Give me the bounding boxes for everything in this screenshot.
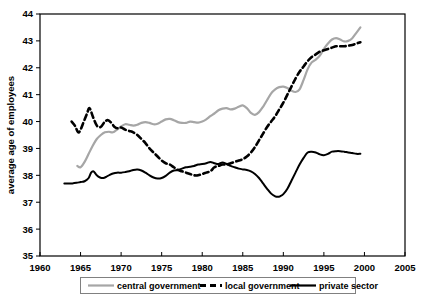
x-tick-label: 2000 bbox=[354, 262, 375, 273]
x-tick-label: 1960 bbox=[29, 262, 50, 273]
legend-label-private-sector: private sector bbox=[319, 281, 379, 291]
x-tick-label: 1985 bbox=[232, 262, 254, 273]
x-axis: 1960196519701975198019851990199520002005 bbox=[29, 252, 416, 273]
plot-area-frame bbox=[40, 14, 405, 256]
x-tick-label: 1995 bbox=[313, 262, 335, 273]
chart-legend: central governmentlocal governmentprivat… bbox=[81, 278, 379, 294]
y-tick-label: 44 bbox=[22, 8, 33, 19]
y-tick-label: 38 bbox=[22, 170, 33, 181]
y-axis: 35363738394041424344 bbox=[22, 8, 40, 261]
y-tick-label: 40 bbox=[22, 116, 33, 127]
y-tick-label: 41 bbox=[22, 89, 33, 100]
chart-figure: 35363738394041424344 1960196519701975198… bbox=[0, 0, 423, 301]
legend-items: central governmentlocal governmentprivat… bbox=[88, 281, 379, 291]
series-line-central-government bbox=[77, 27, 360, 167]
series-line-local-government bbox=[72, 42, 361, 175]
y-tick-label: 36 bbox=[22, 224, 33, 235]
y-tick-label: 43 bbox=[22, 35, 33, 46]
y-tick-label: 35 bbox=[22, 250, 33, 261]
data-series-group bbox=[64, 27, 360, 196]
x-tick-label: 1970 bbox=[111, 262, 132, 273]
x-tick-label: 1965 bbox=[70, 262, 92, 273]
series-line-private-sector bbox=[64, 151, 360, 197]
line-chart-svg: 35363738394041424344 1960196519701975198… bbox=[0, 0, 423, 301]
y-axis-title: average age of employees bbox=[5, 76, 16, 194]
y-tick-label: 39 bbox=[22, 143, 33, 154]
legend-label-central-government: central government bbox=[117, 281, 201, 291]
x-tick-label: 1975 bbox=[151, 262, 173, 273]
x-tick-label: 2005 bbox=[394, 262, 416, 273]
x-tick-label: 1980 bbox=[192, 262, 213, 273]
x-tick-label: 1990 bbox=[273, 262, 294, 273]
y-tick-label: 37 bbox=[22, 197, 33, 208]
y-tick-label: 42 bbox=[22, 62, 33, 73]
legend-label-local-government: local government bbox=[225, 281, 300, 291]
